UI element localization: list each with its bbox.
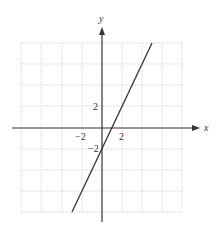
y-axis: [99, 27, 105, 222]
coordinate-plane: x y −2 2 2 −2: [0, 0, 216, 229]
y-tick-label: −2: [88, 143, 99, 154]
y-axis-arrow-icon: [99, 27, 105, 35]
x-axis-arrow-icon: [192, 125, 200, 131]
x-tick-label: −2: [75, 131, 86, 142]
x-axis-label: x: [203, 122, 209, 133]
y-axis-label: y: [98, 13, 104, 24]
x-axis: [12, 125, 200, 131]
x-tick-label: 2: [119, 131, 124, 142]
y-tick-label: 2: [93, 101, 98, 112]
